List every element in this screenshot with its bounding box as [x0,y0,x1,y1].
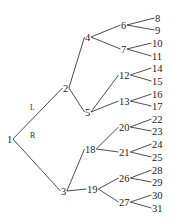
edge-20-23 [130,127,151,131]
tree-node-12: 12 [119,70,130,81]
tree-node-15: 15 [152,76,163,87]
tree-nodes: 1234518196712132021262789101114151617222… [7,13,163,214]
tree-node-20: 20 [119,122,130,133]
tree-node-1: 1 [7,134,12,145]
edge-26-28 [130,170,151,178]
tree-node-11: 11 [152,51,162,62]
edge-21-25 [130,152,151,157]
tree-edges [13,18,155,208]
edge-12-15 [130,75,151,81]
edge-26-29 [130,178,151,182]
edge-27-30 [130,195,151,202]
tree-node-5: 5 [85,107,90,118]
tree-node-13: 13 [119,96,130,107]
edge-27-31 [130,202,151,208]
tree-node-19: 19 [87,184,98,195]
tree-node-8: 8 [155,13,160,24]
tree-node-10: 10 [152,38,163,49]
edge-4-6 [91,25,121,37]
tree-node-16: 16 [152,89,163,100]
edge-13-16 [130,94,151,101]
edge-label-left: L [30,103,35,112]
edge-2-5 [69,88,85,112]
edge-19-27 [98,189,118,202]
edge-4-7 [91,37,121,49]
edge-1-2 [13,88,63,139]
edge-18-20 [96,127,118,149]
edge-2-4 [69,37,85,88]
edge-3-19 [67,189,87,191]
tree-node-9: 9 [155,25,160,36]
edge-7-10 [127,43,152,49]
edge-7-11 [127,49,152,56]
tree-node-21: 21 [119,147,130,158]
tree-node-2: 2 [63,83,68,94]
tree-node-17: 17 [152,101,163,112]
binary-tree-diagram: L R 123451819671213202126278910111415161… [0,0,173,224]
tree-node-3: 3 [61,186,66,197]
edge-label-right: R [30,131,36,140]
tree-node-26: 26 [119,173,130,184]
edge-12-14 [130,68,151,75]
edge-3-18 [67,149,85,191]
tree-node-18: 18 [85,144,96,155]
edge-19-26 [98,178,118,189]
tree-node-4: 4 [85,32,91,43]
tree-node-22: 22 [152,114,163,125]
tree-node-27: 27 [119,197,130,208]
edge-6-8 [127,18,155,25]
tree-node-28: 28 [152,165,163,176]
tree-node-25: 25 [152,152,163,163]
edge-13-17 [130,101,151,106]
tree-node-7: 7 [121,44,126,55]
edge-1-3 [13,139,61,191]
edge-18-21 [96,149,118,152]
tree-node-31: 31 [152,203,163,214]
tree-node-24: 24 [152,139,163,150]
tree-node-30: 30 [152,190,163,201]
tree-node-23: 23 [152,126,163,137]
edge-21-24 [130,144,151,152]
tree-node-14: 14 [152,63,163,74]
tree-node-29: 29 [152,177,163,188]
tree-node-6: 6 [121,20,126,31]
edge-labels: L R [30,103,36,140]
edge-6-9 [127,25,155,30]
edge-20-22 [130,119,151,127]
